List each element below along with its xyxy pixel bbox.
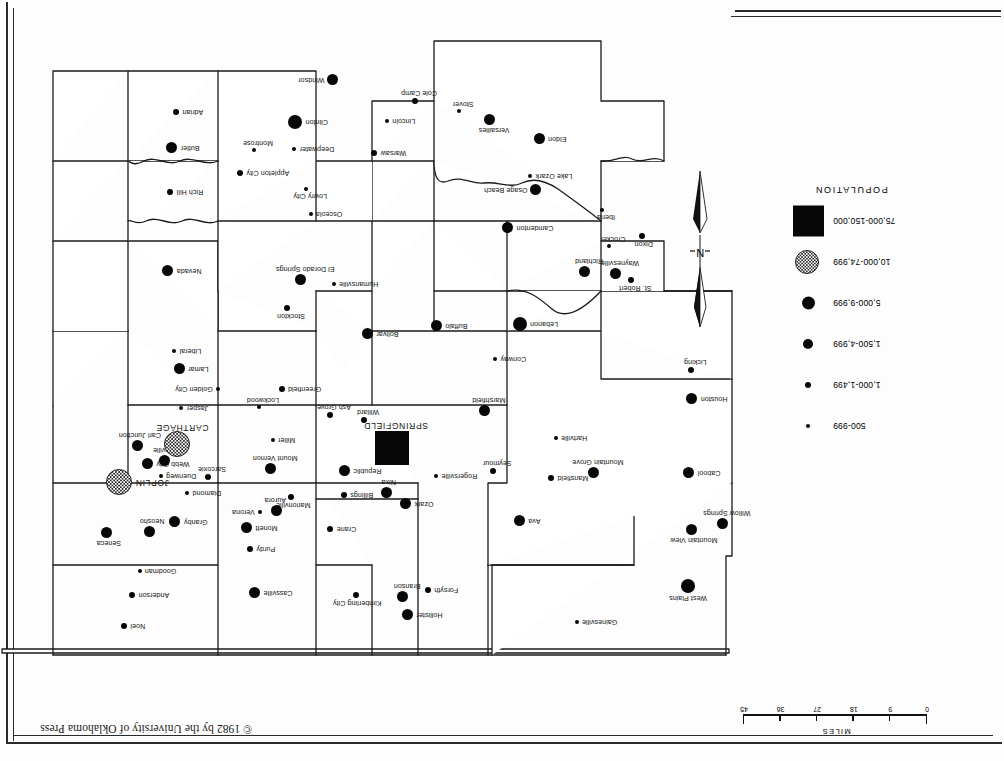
city-label: Houston [701,396,728,403]
city-label: Conway [500,356,526,363]
legend-title: POPULATION [786,185,916,195]
scale-tick [816,714,817,721]
city-label: Crane [337,526,357,533]
city-label: Rich Hill [177,189,204,196]
map-page: MILES 0918273645 500-9991,000-1,4991,500… [0,0,1004,761]
city-label: Butler [181,145,200,152]
legend-row: 10,000-74,999 [771,247,916,277]
city-label: Appleton City [246,170,289,177]
scale-tick-label: 18 [850,706,858,713]
scale-tick-label: 0 [925,706,929,713]
legend-symbol-circle [802,297,815,310]
city-label: Jasper [187,405,209,412]
city-label: Verona [232,509,255,516]
city-label: Nevada [177,268,202,275]
city-label: Ash Grove [317,404,351,411]
legend-symbol-circle [806,382,812,388]
city-label: Hollister [416,612,442,619]
population-legend: 500-9991,000-1,4991,500-4,9995,000-9,999… [771,166,916,441]
city-label: Lamar [188,366,208,373]
city-label: Stover [453,101,474,108]
city-label: Buffalo [445,323,467,330]
city-label: SPRINGFIELD [364,422,428,431]
city-symbol [681,579,695,593]
city-label: Marshfield [472,398,505,405]
city-label: Gainesville [582,619,617,626]
city-symbol [375,431,409,465]
city-label: Richland [575,259,603,266]
city-label: Waynesville [601,261,639,268]
rotated-map-content: MILES 0918273645 500-9991,000-1,4991,500… [0,0,1004,761]
city-label: Granby [184,519,208,526]
city-label: Adrian [182,109,203,116]
city-label: Diamond [193,490,222,497]
legend-row: 75,000-150,000 [771,206,916,236]
scale-tick [926,714,927,724]
city-label: Willow Springs [703,511,750,518]
legend-row: 1,500-4,999 [771,329,916,359]
city-label: Billings [350,492,373,499]
city-label: Neosho [140,519,165,526]
legend-label: 5,000-9,999 [833,298,881,308]
city-label: Crocker [600,236,625,243]
city-label: Monett [256,525,278,532]
city-label: Lowry City [293,193,327,200]
scale-bar: MILES 0918273645 [744,724,927,725]
city-label: Anderson [138,592,169,599]
city-label: El Dorado Springs [276,267,335,274]
scale-tick [889,714,890,721]
city-label: Republic [353,468,381,475]
city-label: Sarcoxie [198,466,226,473]
city-label: Cabool [698,470,721,477]
legend-label: 500-999 [833,421,866,431]
scale-tick-label: 9 [888,706,892,713]
city-label: Ozark [414,501,433,508]
city-label: Cassville [264,590,293,597]
city-symbol [106,469,132,495]
city-label: West Plains [669,595,707,602]
city-label: Lake Ozark [535,173,572,180]
legend-symbol-small-circle [807,424,811,428]
city-label: Liberal [180,348,202,355]
city-label: Mountain View [670,538,717,545]
city-label: Humansville [339,281,378,288]
city-label: Mountain Grove [572,460,623,467]
city-label: Versailles [479,128,510,135]
city-label: Purdy [256,546,275,553]
city-label: Greenfield [288,386,321,393]
city-label: Cole Camp [401,90,437,97]
city-label: Iberia [597,214,615,221]
city-label: Goodman [145,568,176,575]
legend-label: 1,500-4,999 [833,339,881,349]
city-symbol [288,115,302,129]
city-label: Marionville [276,502,311,509]
scale-tick [779,714,780,721]
scale-bar-caption: MILES [821,727,851,736]
scale-tick-label: 27 [813,706,821,713]
city-label: Nixa [382,480,396,487]
north-arrow-letter: N [684,247,716,259]
scale-tick-label: 36 [777,706,785,713]
city-label: Lockwood [247,397,279,404]
city-label: Lincoln [392,118,415,125]
north-arrow: N [684,169,716,329]
city-label: Bolivar [376,331,398,338]
city-label: Noel [130,623,145,630]
city-label: Camdenton [516,225,553,232]
city-label: Ava [528,518,540,525]
legend-row: 1,000-1,499 [771,370,916,400]
scale-tick [743,714,744,724]
city-label: Seymour [483,460,512,467]
city-label: Golden City [175,386,213,393]
legend-label: 10,000-74,999 [833,257,890,267]
city-label: Mount Vernon [253,456,298,463]
city-label: Eldon [548,136,566,143]
legend-row: 5,000-9,999 [771,288,916,318]
city-label: Deepwater [299,146,334,153]
scale-bar-line [744,714,927,716]
city-label: Dixon [635,241,653,248]
scale-tick [852,714,853,721]
city-label: Lebanon [530,321,558,328]
city-label: Rogersville [442,473,478,480]
city-label: Forsyth [434,587,458,594]
